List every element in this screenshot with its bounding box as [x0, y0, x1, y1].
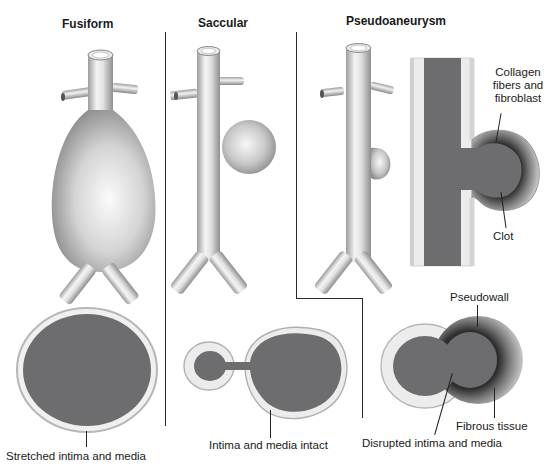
leader-pseudowall — [477, 305, 478, 327]
saccular-cross-section — [184, 327, 347, 418]
pseudowall-label: Pseudowall — [450, 291, 509, 304]
aneurysm-illustration — [0, 0, 552, 472]
leader-intact — [270, 410, 271, 438]
leader-fibrous — [494, 388, 495, 418]
leader-stretched — [86, 431, 87, 447]
disrupted-label: Disrupted intima and media — [362, 437, 502, 450]
collagen-label-line2: fibers and — [488, 79, 548, 92]
collagen-label-line3: fibroblast — [488, 92, 548, 105]
fusiform-vessel — [52, 50, 156, 306]
pseudoaneurysm-cross-section — [381, 316, 523, 408]
pseudoaneurysm-vessel — [314, 44, 395, 296]
clot-label: Clot — [493, 230, 513, 243]
fibrous-tissue-label: Fibrous tissue — [456, 420, 528, 433]
saccular-vessel — [170, 47, 276, 296]
collagen-label: Collagen fibers and fibroblast — [488, 66, 548, 105]
fusiform-cross-section — [17, 308, 157, 432]
stretched-label: Stretched intima and media — [6, 450, 146, 463]
collagen-label-line1: Collagen — [488, 66, 548, 79]
intact-label: Intima and media intact — [209, 439, 328, 452]
